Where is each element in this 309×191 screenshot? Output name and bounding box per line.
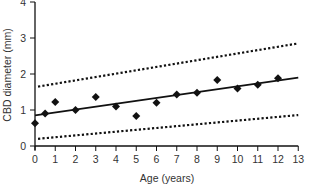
data-point-diamond (31, 119, 39, 127)
x-tick-label: 2 (73, 153, 79, 165)
x-tick-label: 11 (252, 153, 263, 165)
cbd-diameter-chart: 01234 012345678910111213 Age (years) CBD… (0, 0, 309, 191)
data-point-diamond (92, 93, 100, 101)
y-axis-title: CBD diameter (mm) (1, 28, 13, 121)
data-point-diamond (132, 112, 140, 120)
x-tick-label: 12 (272, 153, 284, 165)
data-point-diamond (41, 110, 49, 118)
data-point-diamond (51, 98, 59, 106)
y-tick-label: 1 (20, 104, 26, 116)
x-axis-title: Age (years) (140, 172, 194, 184)
x-tick-label: 1 (52, 153, 58, 165)
y-tick-label: 4 (20, 0, 26, 8)
data-point-diamond (72, 106, 80, 114)
y-axis: 01234 (20, 0, 35, 152)
x-axis: 012345678910111213 (32, 146, 304, 165)
limit-line (38, 43, 298, 86)
y-tick-label: 3 (20, 32, 26, 44)
trend-lines (35, 43, 298, 138)
x-tick-label: 10 (232, 153, 244, 165)
x-tick-label: 6 (154, 153, 160, 165)
y-tick-label: 2 (20, 68, 26, 80)
x-tick-label: 5 (133, 153, 139, 165)
x-tick-label: 4 (113, 153, 119, 165)
data-point-diamond (254, 81, 262, 89)
x-tick-label: 0 (32, 153, 38, 165)
x-tick-label: 9 (214, 153, 220, 165)
data-point-diamond (213, 76, 221, 84)
data-point-diamond (153, 99, 161, 107)
limit-line (38, 115, 298, 139)
x-tick-label: 7 (174, 153, 180, 165)
x-tick-label: 3 (93, 153, 99, 165)
data-point-diamond (173, 91, 181, 99)
data-point-diamond (193, 89, 201, 97)
y-tick-label: 0 (20, 140, 26, 152)
x-tick-label: 8 (194, 153, 200, 165)
x-tick-label: 13 (292, 153, 304, 165)
